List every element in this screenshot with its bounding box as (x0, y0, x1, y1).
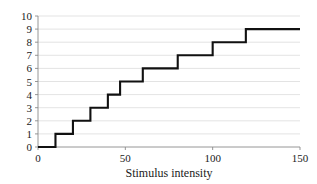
step-chart: 012345678910 050100150 Stimulus intensit… (0, 0, 317, 184)
y-tick-label: 6 (27, 62, 33, 74)
gridlines-group (38, 16, 300, 134)
chart-container: 012345678910 050100150 Stimulus intensit… (0, 0, 317, 184)
x-axis-title: Stimulus intensity (125, 166, 212, 180)
y-tick-label: 3 (27, 102, 33, 114)
x-tick-label: 100 (204, 152, 221, 164)
y-tick-labels-group: 012345678910 (21, 10, 33, 153)
y-tick-label: 8 (27, 36, 33, 48)
y-tick-label: 5 (27, 76, 33, 88)
y-tick-label: 4 (27, 89, 33, 101)
y-tick-label: 2 (27, 115, 33, 127)
data-step-line (38, 29, 300, 147)
y-tick-label: 1 (27, 128, 33, 140)
x-tick-label: 0 (35, 152, 41, 164)
y-tick-label: 7 (27, 49, 33, 61)
x-tick-label: 50 (120, 152, 132, 164)
x-tick-label: 150 (292, 152, 309, 164)
x-tick-labels-group: 050100150 (35, 152, 309, 164)
tick-marks-group (35, 16, 300, 150)
y-tick-label: 9 (27, 23, 33, 35)
y-tick-label: 0 (27, 141, 33, 153)
y-tick-label: 10 (21, 10, 33, 22)
data-series-group (38, 29, 300, 147)
